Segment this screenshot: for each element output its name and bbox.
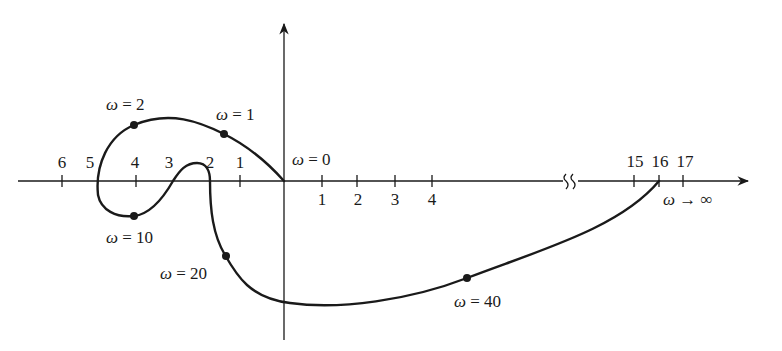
axis-break-icon — [564, 174, 575, 189]
label-omega-infinity: ω → ∞ — [663, 190, 713, 209]
tick-label: 4 — [428, 190, 437, 209]
marker-omega-40 — [463, 274, 471, 282]
marker-omega-20 — [222, 252, 230, 260]
tick-label: 3 — [391, 190, 400, 209]
tick-label: 6 — [58, 153, 67, 172]
tick-label: 15 — [627, 152, 644, 171]
omega-labels: ω = 0 ω = 1 ω = 2 ω = 10 ω = 20 ω = 40 ω… — [106, 95, 713, 311]
marker-omega-1 — [220, 130, 228, 138]
label-omega-2: ω = 2 — [106, 95, 145, 114]
negative-axis-labels: 1 2 3 4 5 6 — [58, 153, 245, 172]
tick-label: 4 — [131, 153, 140, 172]
marker-omega-2 — [130, 121, 138, 129]
label-omega-20: ω = 20 — [160, 264, 207, 283]
label-omega-0: ω = 0 — [292, 150, 331, 169]
nyquist-diagram: 1 2 3 4 5 6 1 2 3 4 15 16 17 ω = 0 ω = 1… — [0, 0, 782, 351]
tick-label: 2 — [354, 190, 363, 209]
tick-label: 1 — [236, 153, 245, 172]
far-axis-labels: 15 16 17 — [627, 152, 695, 171]
marker-omega-10 — [130, 212, 138, 220]
label-omega-1: ω = 1 — [216, 105, 255, 124]
tick-label: 3 — [165, 153, 174, 172]
positive-axis-labels: 1 2 3 4 — [318, 190, 437, 209]
label-omega-40: ω = 40 — [454, 292, 501, 311]
frequency-markers — [130, 121, 471, 282]
label-omega-10: ω = 10 — [106, 228, 153, 247]
tick-label: 16 — [652, 152, 669, 171]
diagram-svg: 1 2 3 4 5 6 1 2 3 4 15 16 17 ω = 0 ω = 1… — [0, 0, 782, 351]
real-axis — [18, 174, 748, 189]
tick-label: 5 — [86, 153, 95, 172]
tick-label: 1 — [318, 190, 327, 209]
tick-label: 17 — [677, 152, 695, 171]
